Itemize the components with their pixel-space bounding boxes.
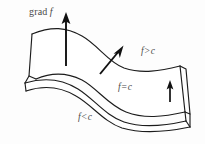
lower-sheet-right-inner bbox=[185, 112, 186, 121]
label-f-less-than-c: f<c bbox=[78, 113, 92, 123]
label-f-lt-c-constant: c bbox=[88, 112, 93, 122]
label-f-gt-c-operator: > bbox=[144, 46, 151, 56]
label-grad-f-variable: f bbox=[50, 6, 53, 17]
label-f-eq-c-constant: c bbox=[128, 82, 133, 92]
label-f-eq-c-operator: = bbox=[121, 82, 128, 92]
label-grad-f-prefix: grad bbox=[29, 6, 48, 17]
label-grad-f: grad f bbox=[29, 7, 53, 17]
upper-sheet-face bbox=[32, 29, 185, 117]
upper-sheet bbox=[29, 29, 190, 117]
gradient-level-surface-figure: grad f f>c f=c f<c bbox=[0, 0, 205, 144]
label-f-lt-c-operator: < bbox=[81, 112, 88, 122]
label-f-greater-than-c: f>c bbox=[141, 47, 155, 57]
label-f-gt-c-constant: c bbox=[151, 46, 156, 56]
figure-canvas bbox=[0, 0, 205, 144]
label-f-equals-c: f=c bbox=[118, 83, 132, 93]
